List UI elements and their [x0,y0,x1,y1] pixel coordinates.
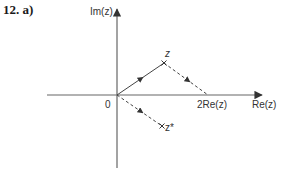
vector-z [117,63,164,95]
vector-z-conjugate [117,95,162,126]
point-z-label: z [164,48,170,59]
imaginary-axis-label: Im(z) [90,6,113,17]
point-z-conjugate-label: z* [165,122,174,133]
origin-label: 0 [105,99,111,110]
vector-z-to-2re [164,63,208,95]
cross-icon [162,61,167,66]
argand-diagram: Im(z) Re(z) 0 z 2Re(z) z* [0,0,281,181]
point-2re-label: 2Re(z) [197,99,227,110]
real-axis-label: Re(z) [252,99,276,110]
cross-icon [160,124,165,129]
